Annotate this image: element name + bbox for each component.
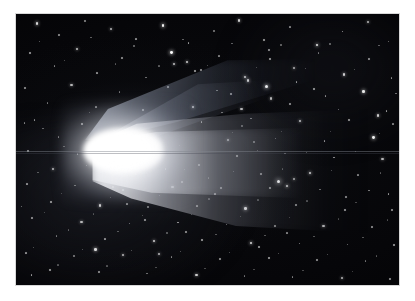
star bbox=[182, 39, 183, 40]
star bbox=[133, 45, 134, 46]
star bbox=[229, 252, 230, 253]
star bbox=[391, 77, 393, 79]
star bbox=[155, 267, 156, 268]
star bbox=[302, 270, 303, 271]
star bbox=[379, 133, 380, 134]
star bbox=[76, 48, 78, 50]
star bbox=[49, 269, 51, 271]
star bbox=[80, 221, 82, 223]
comet-photograph bbox=[16, 14, 399, 285]
star bbox=[58, 136, 60, 138]
star bbox=[313, 88, 315, 90]
page-root bbox=[0, 0, 415, 301]
star bbox=[268, 257, 270, 259]
star bbox=[31, 217, 33, 219]
star bbox=[381, 158, 383, 160]
star bbox=[185, 231, 187, 233]
star bbox=[270, 97, 272, 99]
star bbox=[99, 204, 101, 206]
star bbox=[147, 206, 149, 208]
star bbox=[368, 58, 370, 60]
scanline-artifact-secondary bbox=[16, 153, 399, 154]
star bbox=[24, 87, 26, 89]
star bbox=[84, 20, 86, 22]
star bbox=[329, 43, 330, 44]
star bbox=[250, 242, 252, 244]
star bbox=[352, 271, 353, 272]
star bbox=[64, 60, 65, 61]
star bbox=[219, 258, 221, 260]
star bbox=[316, 259, 318, 261]
star bbox=[98, 271, 100, 273]
star bbox=[299, 243, 301, 245]
star bbox=[226, 224, 228, 226]
star bbox=[146, 273, 148, 275]
star bbox=[177, 222, 179, 224]
star bbox=[50, 201, 52, 203]
star bbox=[70, 84, 72, 86]
star bbox=[93, 213, 94, 214]
star bbox=[162, 24, 165, 27]
star bbox=[240, 108, 242, 110]
star bbox=[37, 172, 38, 173]
star bbox=[392, 123, 394, 125]
star bbox=[119, 91, 121, 93]
star bbox=[153, 240, 155, 242]
star bbox=[371, 226, 373, 228]
star bbox=[258, 246, 260, 248]
star bbox=[393, 244, 395, 246]
star bbox=[158, 65, 159, 66]
star bbox=[378, 45, 379, 46]
star bbox=[188, 42, 190, 44]
star bbox=[372, 136, 375, 139]
star bbox=[204, 268, 205, 269]
star bbox=[90, 37, 91, 38]
star bbox=[238, 19, 240, 21]
star bbox=[377, 114, 379, 116]
star bbox=[218, 55, 220, 57]
star bbox=[31, 274, 33, 276]
star bbox=[44, 212, 45, 213]
star bbox=[292, 276, 294, 278]
star bbox=[213, 30, 215, 32]
star bbox=[29, 52, 31, 54]
star bbox=[180, 251, 181, 252]
star bbox=[244, 275, 246, 277]
star bbox=[264, 235, 265, 236]
star bbox=[117, 231, 118, 232]
star bbox=[376, 255, 377, 256]
star bbox=[368, 190, 370, 192]
star bbox=[115, 63, 116, 64]
star bbox=[313, 236, 314, 237]
star bbox=[327, 254, 328, 255]
star bbox=[231, 43, 232, 44]
star bbox=[389, 278, 391, 280]
star bbox=[42, 128, 44, 130]
star bbox=[207, 65, 208, 66]
star bbox=[380, 172, 381, 173]
star bbox=[171, 256, 173, 258]
star bbox=[343, 73, 345, 75]
star bbox=[388, 41, 390, 43]
star bbox=[68, 229, 69, 230]
star bbox=[289, 103, 291, 105]
star bbox=[36, 22, 38, 24]
star bbox=[253, 269, 254, 270]
star bbox=[94, 248, 96, 250]
star bbox=[56, 235, 58, 237]
star bbox=[47, 102, 49, 104]
star bbox=[391, 209, 393, 211]
star bbox=[263, 39, 265, 41]
star bbox=[34, 119, 36, 121]
star bbox=[318, 52, 320, 54]
star bbox=[131, 250, 132, 251]
star bbox=[395, 93, 397, 95]
star bbox=[367, 21, 369, 23]
star bbox=[110, 28, 112, 30]
star bbox=[129, 223, 131, 225]
star bbox=[25, 252, 27, 254]
star bbox=[387, 219, 388, 220]
star bbox=[96, 72, 98, 74]
star bbox=[195, 274, 197, 276]
star bbox=[24, 122, 26, 124]
